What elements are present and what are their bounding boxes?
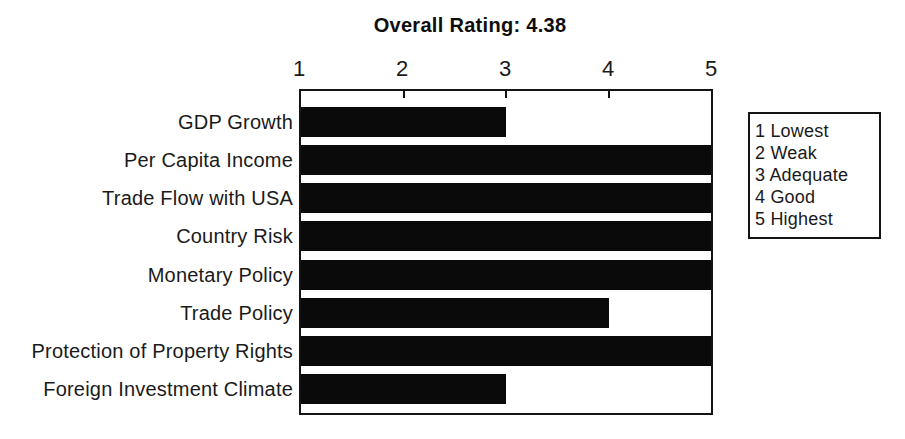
bars-group bbox=[301, 91, 711, 413]
category-label: Monetary Policy bbox=[0, 260, 293, 290]
legend-item: 4 Good bbox=[755, 186, 877, 208]
bar bbox=[301, 336, 711, 366]
bar bbox=[301, 374, 506, 404]
bar bbox=[301, 145, 711, 175]
category-label: GDP Growth bbox=[0, 107, 293, 137]
x-axis-tick-label: 1 bbox=[279, 56, 319, 82]
x-axis: 12345 bbox=[279, 56, 733, 84]
bar bbox=[301, 107, 506, 137]
category-label: Trade Flow with USA bbox=[0, 183, 293, 213]
category-label: Foreign Investment Climate bbox=[0, 374, 293, 404]
legend-item: 1 Lowest bbox=[755, 120, 877, 142]
bar bbox=[301, 298, 609, 328]
category-label: Country Risk bbox=[0, 221, 293, 251]
x-axis-tick-label: 3 bbox=[485, 56, 525, 82]
axis-tick-mark bbox=[403, 91, 405, 98]
x-axis-tick-label: 5 bbox=[691, 56, 731, 82]
legend: 1 Lowest2 Weak3 Adequate4 Good5 Highest bbox=[748, 112, 881, 239]
bar bbox=[301, 221, 711, 251]
chart-title: Overall Rating: 4.38 bbox=[35, 14, 905, 37]
legend-item: 5 Highest bbox=[755, 208, 877, 230]
category-label: Protection of Property Rights bbox=[0, 336, 293, 366]
axis-tick-mark bbox=[505, 91, 507, 98]
bar bbox=[301, 183, 711, 213]
bar bbox=[301, 260, 711, 290]
legend-item: 3 Adequate bbox=[755, 164, 877, 186]
axis-tick-mark bbox=[608, 91, 610, 98]
legend-items-group: 1 Lowest2 Weak3 Adequate4 Good5 Highest bbox=[755, 120, 877, 230]
x-axis-tick-label: 2 bbox=[382, 56, 422, 82]
plot-area bbox=[299, 89, 713, 415]
x-axis-tick-label: 4 bbox=[588, 56, 628, 82]
legend-item: 2 Weak bbox=[755, 142, 877, 164]
category-labels-column: GDP GrowthPer Capita IncomeTrade Flow wi… bbox=[0, 89, 293, 415]
category-label: Per Capita Income bbox=[0, 145, 293, 175]
category-label: Trade Policy bbox=[0, 298, 293, 328]
